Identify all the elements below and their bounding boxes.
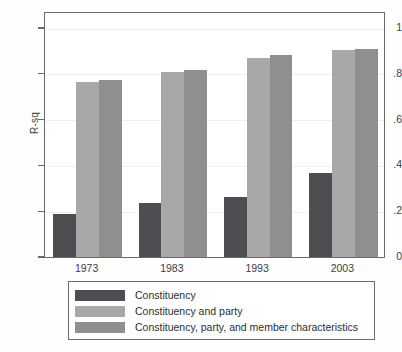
y-axis-title: R-sq	[29, 93, 40, 153]
x-axis-tick-label: 1983	[129, 262, 214, 274]
legend-swatch	[75, 290, 125, 301]
x-axis-tick-label: 1973	[44, 262, 129, 274]
plot-area	[44, 12, 385, 258]
bar	[184, 70, 207, 257]
legend-swatch	[75, 306, 125, 317]
legend-item[interactable]: Constituency and party	[75, 304, 242, 318]
x-axis-line	[44, 257, 385, 258]
bar	[139, 203, 162, 257]
legend-label: Constituency and party	[135, 306, 242, 317]
bar	[99, 80, 122, 257]
bar	[270, 55, 293, 257]
legend-item[interactable]: Constituency	[75, 288, 196, 302]
bar	[76, 82, 99, 257]
bar	[53, 214, 76, 258]
bar	[224, 197, 247, 257]
x-axis-tick-label: 1993	[215, 262, 300, 274]
bar	[161, 72, 184, 257]
bar	[355, 49, 378, 257]
legend: ConstituencyConstituency and partyConsti…	[68, 281, 375, 340]
bars-layer	[45, 13, 384, 257]
bar	[309, 173, 332, 257]
x-axis-tick-label: 2003	[300, 262, 385, 274]
legend-label: Constituency, party, and member characte…	[135, 322, 358, 333]
bar	[247, 58, 270, 257]
legend-item[interactable]: Constituency, party, and member characte…	[75, 320, 358, 334]
legend-label: Constituency	[135, 290, 196, 301]
bar-chart: R-sq 0.2.4.6.81 1973198319932003 Constit…	[0, 0, 402, 352]
legend-swatch	[75, 322, 125, 333]
bar	[332, 50, 355, 257]
